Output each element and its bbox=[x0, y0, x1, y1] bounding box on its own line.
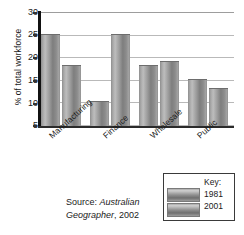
bar-manufacturing-1981 bbox=[41, 34, 60, 126]
y-tick-mark-25 bbox=[33, 34, 37, 36]
bar-group bbox=[38, 12, 234, 126]
source-prefix: Source: bbox=[66, 197, 100, 207]
legend-label-1981: 1981 bbox=[204, 189, 231, 201]
legend-swatches bbox=[167, 177, 200, 217]
y-tick-mark-5 bbox=[33, 125, 37, 127]
bar-chart: % of total workforce 30 25 20 15 10 5 bbox=[0, 0, 244, 235]
legend-swatch-1981 bbox=[167, 188, 200, 202]
y-axis-ticks: 30 25 20 15 10 5 bbox=[0, 0, 38, 235]
y-tick-mark-30 bbox=[33, 12, 37, 14]
legend-swatch-2001 bbox=[167, 203, 200, 217]
bar-public-1981 bbox=[188, 79, 207, 126]
y-tick-mark-15 bbox=[33, 80, 37, 82]
bar-wholesale-1981 bbox=[139, 65, 158, 126]
legend: Key: 1981 2001 bbox=[163, 173, 235, 221]
y-tick-mark-20 bbox=[33, 57, 37, 59]
source-year: , 2002 bbox=[114, 210, 139, 220]
bar-finance-2001 bbox=[111, 34, 130, 126]
source-publication-part2: Geographer bbox=[66, 210, 114, 220]
y-tick-mark-10 bbox=[33, 103, 37, 105]
legend-labels: Key: 1981 2001 bbox=[204, 177, 231, 217]
legend-title: Key: bbox=[204, 177, 231, 189]
source-publication-part1: Australian bbox=[100, 197, 140, 207]
legend-label-2001: 2001 bbox=[204, 201, 231, 213]
